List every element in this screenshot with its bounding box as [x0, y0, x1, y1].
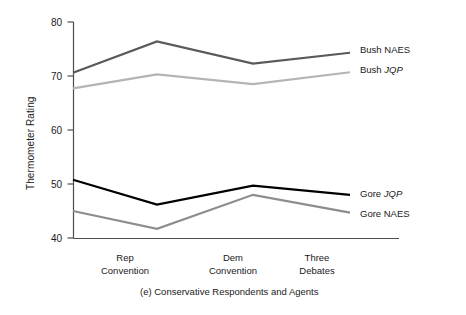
- legend-label-bush-jqp-italic: JQP: [384, 64, 402, 75]
- y-tick-label-50: 50: [40, 179, 62, 190]
- x-tick-label-three-debates: Three Debates: [267, 252, 367, 277]
- y-tick-label-40: 40: [40, 233, 62, 244]
- legend-label-bush-jqp: Bush JQP: [360, 64, 403, 75]
- series-line-gore-jqp: [73, 180, 350, 205]
- legend-label-bush-naes: Bush NAES: [360, 44, 410, 55]
- y-tick-label-80: 80: [40, 17, 62, 28]
- chart-figure: 80 70 60 50 40 Thermometer Rating Rep Co…: [0, 0, 466, 315]
- legend-label-gore-jqp-prefix: Gore: [360, 188, 384, 199]
- y-tick-label-70: 70: [40, 71, 62, 82]
- series-line-bush-jqp: [73, 72, 350, 88]
- figure-caption: (e) Conservative Respondents and Agents: [140, 286, 319, 297]
- series-line-bush-naes: [73, 41, 350, 72]
- x-tick-label-debates-line1: Three: [267, 252, 367, 265]
- series-line-gore-naes: [73, 195, 350, 229]
- series-layer: [73, 41, 350, 228]
- y-tick-label-60: 60: [40, 125, 62, 136]
- legend-label-gore-jqp: Gore JQP: [360, 188, 402, 199]
- x-tick-label-rep-convention: Rep Convention: [75, 252, 175, 277]
- x-tick-label-rep-line1: Rep: [75, 252, 175, 265]
- x-tick-label-debates-line2: Debates: [267, 265, 367, 278]
- legend-label-gore-jqp-italic: JQP: [384, 188, 402, 199]
- x-tick-label-rep-line2: Convention: [75, 265, 175, 278]
- legend-label-bush-jqp-prefix: Bush: [360, 64, 384, 75]
- y-axis-title: Thermometer Rating: [25, 97, 36, 191]
- legend-label-gore-naes: Gore NAES: [360, 208, 410, 219]
